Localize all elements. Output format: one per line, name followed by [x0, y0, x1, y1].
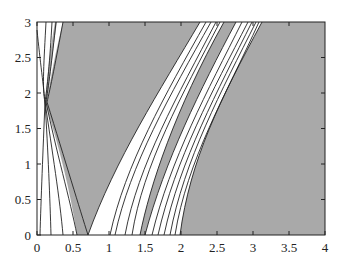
x-tick-label: 1.5	[137, 240, 153, 255]
y-tick-label: 3	[25, 15, 32, 30]
y-tick-label: 2.5	[15, 50, 31, 65]
y-tick-label: 1.5	[15, 121, 31, 136]
x-tick-label: 0.5	[65, 240, 81, 255]
chart: 0 0.5 1 1.5 2 2.5 3 3.5 4 0 0.5 1 1.5 2 …	[0, 0, 342, 266]
x-tick-label: 2	[178, 240, 185, 255]
y-tick-label: 0	[25, 228, 32, 243]
x-tick-label: 4	[322, 240, 329, 255]
x-tick-label: 3.5	[281, 240, 297, 255]
x-tick-labels: 0 0.5 1 1.5 2 2.5 3 3.5 4	[34, 240, 329, 255]
x-tick-label: 2.5	[209, 240, 225, 255]
y-tick-label: 2	[25, 86, 32, 101]
y-tick-label: 1	[25, 157, 32, 172]
x-tick-label: 1	[106, 240, 113, 255]
x-tick-label: 3	[250, 240, 257, 255]
x-tick-label: 0	[34, 240, 41, 255]
y-tick-label: 0.5	[15, 192, 31, 207]
y-tick-labels: 0 0.5 1 1.5 2 2.5 3	[15, 15, 31, 243]
